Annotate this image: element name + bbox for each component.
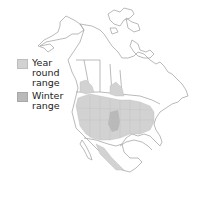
year-round-swatch	[17, 59, 28, 69]
winter-swatch	[17, 92, 28, 102]
year-round-range-mexico	[96, 144, 124, 170]
gulf-coast	[120, 140, 152, 150]
legend-item-year-round: Year round range	[17, 58, 68, 88]
legend-label: Winter range	[32, 91, 68, 111]
hudson-bay	[130, 40, 154, 58]
arctic-islands	[108, 8, 140, 34]
year-round-range-north-central	[110, 82, 124, 96]
legend-label: Year round range	[32, 58, 68, 88]
year-round-range-north-west	[80, 80, 94, 94]
baja-outline	[80, 140, 92, 160]
map-legend: Year round range Winter range	[17, 58, 68, 114]
legend-item-winter: Winter range	[17, 91, 68, 111]
